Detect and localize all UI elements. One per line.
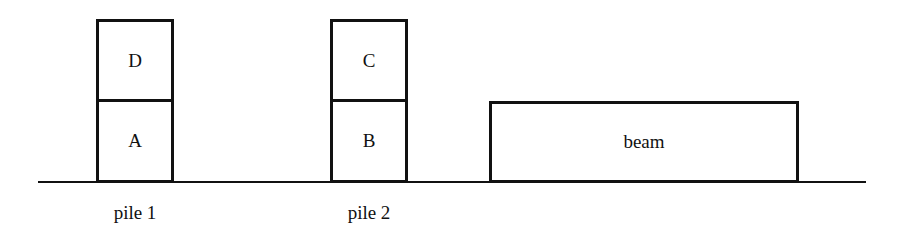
beam-label: beam — [623, 131, 664, 153]
block-b: B — [330, 99, 408, 183]
block-c: C — [330, 19, 408, 102]
block-d-label: D — [128, 50, 142, 72]
pile-1-label: pile 1 — [96, 202, 174, 224]
block-a-label: A — [128, 130, 142, 152]
block-a: A — [96, 99, 174, 183]
beam: beam — [489, 101, 799, 183]
block-c-label: C — [363, 50, 376, 72]
block-b-label: B — [363, 130, 376, 152]
pile-2-label: pile 2 — [330, 202, 408, 224]
block-d: D — [96, 19, 174, 102]
